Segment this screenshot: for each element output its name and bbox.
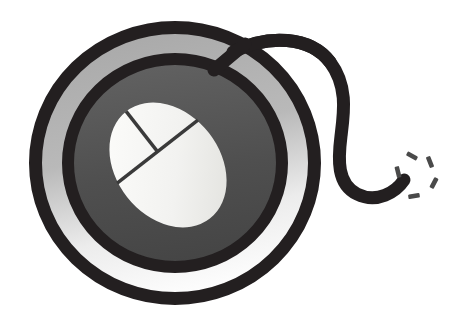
mouse-target-logo <box>0 0 473 325</box>
logo-canvas <box>0 0 473 325</box>
